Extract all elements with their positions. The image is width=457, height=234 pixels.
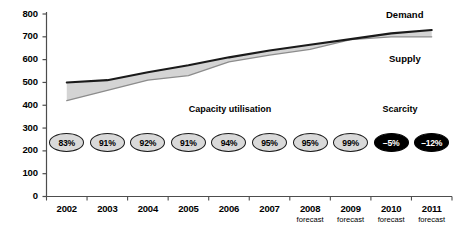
y-axis-tick-label: 400 bbox=[2, 99, 38, 110]
x-axis-category-sublabel: forecast bbox=[290, 215, 331, 224]
chart-plot-area bbox=[0, 0, 457, 234]
y-axis-tick-label: 300 bbox=[2, 122, 38, 133]
x-axis-category-year: 2005 bbox=[178, 203, 198, 214]
capacity-utilisation-pill: 91% bbox=[171, 133, 206, 152]
y-axis-tick-label: 500 bbox=[2, 76, 38, 87]
x-axis-category-year: 2002 bbox=[57, 203, 77, 214]
x-axis-category-year: 2003 bbox=[97, 203, 117, 214]
x-axis-category-year: 2009 bbox=[340, 203, 360, 214]
demand-series-label: Demand bbox=[386, 9, 423, 20]
x-axis-category-year: 2007 bbox=[259, 203, 279, 214]
y-axis-tick-label: 800 bbox=[2, 8, 38, 19]
x-axis-category-year: 2010 bbox=[381, 203, 401, 214]
x-axis-category-label: 2011forecast bbox=[411, 203, 452, 224]
x-axis-category-year: 2008 bbox=[300, 203, 320, 214]
capacity-utilisation-pill: –12% bbox=[414, 133, 449, 152]
x-axis-category-label: 2008forecast bbox=[290, 203, 331, 224]
x-axis-category-label: 2007 bbox=[249, 203, 290, 214]
x-axis-category-year: 2006 bbox=[219, 203, 239, 214]
y-axis-tick-label: 700 bbox=[2, 30, 38, 41]
capacity-utilisation-pill: –5% bbox=[374, 133, 409, 152]
capacity-utilisation-pill: 95% bbox=[252, 133, 287, 152]
capacity-utilisation-annotation: Capacity utilisation bbox=[170, 104, 290, 114]
chart-container: 0100200300400500600700800 20022003200420… bbox=[0, 0, 457, 234]
scarcity-annotation: Scarcity bbox=[360, 104, 440, 114]
x-axis-category-sublabel: forecast bbox=[330, 215, 371, 224]
scarcity-gap-area bbox=[67, 30, 432, 101]
x-axis-category-label: 2010forecast bbox=[371, 203, 412, 224]
y-axis-tick-label: 100 bbox=[2, 167, 38, 178]
capacity-utilisation-pill: 91% bbox=[90, 133, 125, 152]
series-group bbox=[67, 30, 432, 101]
x-axis-category-label: 2006 bbox=[209, 203, 250, 214]
x-axis-category-sublabel: forecast bbox=[371, 215, 412, 224]
x-axis-category-label: 2002 bbox=[47, 203, 88, 214]
x-axis-category-label: 2003 bbox=[87, 203, 128, 214]
x-axis-category-label: 2004 bbox=[128, 203, 169, 214]
supply-line bbox=[67, 37, 432, 101]
x-axis-category-label: 2009forecast bbox=[330, 203, 371, 224]
y-axis-tick-label: 200 bbox=[2, 144, 38, 155]
capacity-utilisation-pill: 95% bbox=[293, 133, 328, 152]
x-axis-category-year: 2004 bbox=[138, 203, 158, 214]
y-axis-tick-label: 0 bbox=[2, 190, 38, 201]
capacity-utilisation-pill: 99% bbox=[333, 133, 368, 152]
x-axis-category-year: 2011 bbox=[422, 203, 442, 214]
x-axis-category-label: 2005 bbox=[168, 203, 209, 214]
y-axis-tick-label: 600 bbox=[2, 53, 38, 64]
supply-series-label: Supply bbox=[389, 53, 421, 64]
x-axis-category-sublabel: forecast bbox=[411, 215, 452, 224]
x-axis-ticks bbox=[47, 197, 453, 201]
